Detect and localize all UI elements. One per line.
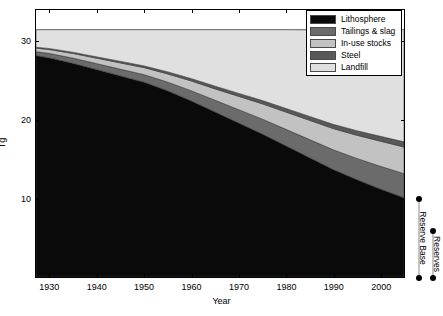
legend-label-3: Steel	[341, 51, 360, 60]
x-axis-title: Year	[0, 296, 443, 306]
range-line-1	[433, 231, 434, 278]
legend-swatch-2	[310, 39, 336, 48]
legend-item-steel[interactable]: Steel	[310, 49, 398, 61]
range-line-0	[419, 199, 420, 278]
x-tick-top-1960	[192, 9, 193, 13]
legend-swatch-4	[310, 63, 336, 72]
x-tick-1960	[192, 274, 193, 278]
x-tick-top-1950	[144, 9, 145, 13]
y-axis-title: Tg	[0, 138, 7, 149]
y-tick-right-20	[401, 120, 405, 121]
x-tick-label-1930: 1930	[39, 282, 59, 292]
legend[interactable]: LithosphereTailings & slagIn-use stocksS…	[306, 10, 402, 76]
x-tick-label-1940: 1940	[87, 282, 107, 292]
legend-label-1: Tailings & slag	[341, 27, 395, 36]
x-tick-top-1930	[49, 9, 50, 13]
range-annotation-reserves	[428, 231, 438, 278]
legend-item-landfill[interactable]: Landfill	[310, 61, 398, 73]
x-tick-top-1970	[239, 9, 240, 13]
range-dot-bottom-1	[430, 275, 436, 281]
x-tick-label-1960: 1960	[182, 282, 202, 292]
figure: 19301940195019601970198019902000102030 T…	[0, 0, 443, 316]
x-tick-1980	[286, 274, 287, 278]
range-dot-bottom-0	[416, 275, 422, 281]
y-tick-30	[35, 41, 39, 42]
x-tick-1930	[49, 274, 50, 278]
y-tick-label-10: 10	[13, 194, 31, 204]
range-annotation-reserve-base	[414, 199, 424, 278]
x-tick-1950	[144, 274, 145, 278]
legend-swatch-1	[310, 27, 336, 36]
range-dot-top-0	[416, 196, 422, 202]
y-tick-20	[35, 120, 39, 121]
y-tick-label-30: 30	[13, 36, 31, 46]
x-tick-label-1970: 1970	[229, 282, 249, 292]
x-tick-label-2000: 2000	[371, 282, 391, 292]
x-tick-label-1980: 1980	[276, 282, 296, 292]
legend-item-lithosphere[interactable]: Lithosphere	[310, 13, 398, 25]
x-tick-label-1990: 1990	[324, 282, 344, 292]
x-tick-top-1980	[286, 9, 287, 13]
x-tick-1970	[239, 274, 240, 278]
legend-swatch-3	[310, 51, 336, 60]
x-tick-top-1940	[97, 9, 98, 13]
legend-label-4: Landfill	[341, 63, 368, 72]
y-tick-label-20: 20	[13, 115, 31, 125]
x-tick-2000	[381, 274, 382, 278]
range-dot-top-1	[430, 228, 436, 234]
x-tick-1990	[334, 274, 335, 278]
x-tick-1940	[97, 274, 98, 278]
y-tick-10	[35, 199, 39, 200]
x-tick-label-1950: 1950	[134, 282, 154, 292]
legend-label-0: Lithosphere	[341, 15, 385, 24]
legend-label-2: In-use stocks	[341, 39, 391, 48]
legend-swatch-0	[310, 15, 336, 24]
legend-item-in-use-stocks[interactable]: In-use stocks	[310, 37, 398, 49]
legend-item-tailings-slag[interactable]: Tailings & slag	[310, 25, 398, 37]
y-tick-right-10	[401, 199, 405, 200]
